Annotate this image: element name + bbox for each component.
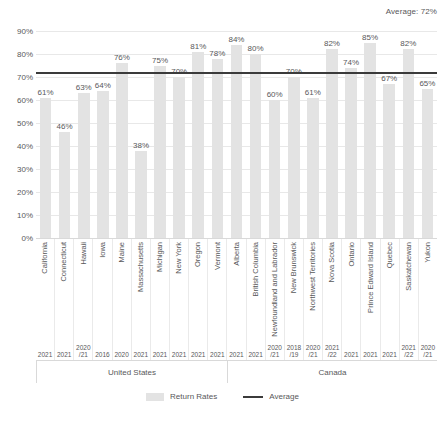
bar-value-label: 46% [57,123,73,131]
return-rates-chart: Average: 72% 0%10%20%30%40%50%60%70%80%9… [0,0,445,429]
bar-value-label: 82% [400,40,416,48]
category-label: New Brunswick [290,242,298,293]
bar-slot[interactable]: 81% [189,31,208,238]
bar[interactable]: 60% [269,100,281,238]
category-label: Newfoundland and Labrador [271,242,279,337]
bar-swatch-icon [146,393,164,401]
bar-slot[interactable]: 38% [131,31,150,238]
bar-value-label: 81% [190,43,206,51]
year-label: 2021 [344,352,358,359]
bar-slot[interactable]: 84% [227,31,246,238]
category-label: Michigan [156,242,164,272]
bar-slot[interactable]: 75% [151,31,170,238]
bar-slot[interactable]: 61% [303,31,322,238]
legend-label-return-rates: Return Rates [170,392,217,401]
category-label: New York [175,242,183,274]
y-tick-label: 80% [17,50,33,59]
line-swatch-icon [243,396,263,398]
bar-slot[interactable]: 46% [55,31,74,238]
bar[interactable]: 61% [40,98,52,238]
category-tick: Nova Scotia [323,239,342,339]
bar[interactable]: 70% [173,77,185,238]
year-label: 2021 [210,352,224,359]
bar-slot[interactable]: 65% [418,31,437,238]
bar-slot[interactable]: 82% [399,31,418,238]
year-label: 2021 [172,352,186,359]
category-tick: New Brunswick [285,239,304,339]
category-label: Nova Scotia [328,242,336,282]
bar[interactable]: 80% [250,54,262,238]
bar-slot[interactable]: 60% [265,31,284,238]
bar[interactable]: 61% [307,98,319,238]
category-label: Northwest Territories [309,242,317,311]
category-label: Connecticut [60,242,68,282]
year-tick: 2021/22 [323,338,342,360]
bar[interactable]: 46% [59,132,71,238]
legend-item-average: Average [243,392,299,401]
bar-slot[interactable]: 67% [380,31,399,238]
year-tick: 2021 [227,338,246,360]
bar[interactable]: 65% [422,89,434,239]
bar-value-label: 82% [324,40,340,48]
bar-value-label: 65% [419,80,435,88]
year-tick: 2021 [208,338,227,360]
bar[interactable]: 82% [326,49,338,238]
year-tick: 2021 [55,338,74,360]
bar[interactable]: 64% [97,91,109,238]
bar-value-label: 80% [248,45,264,53]
year-tick: 2021 [132,338,151,360]
category-label: Ontario [348,242,356,267]
year-tick: 2018/19 [285,338,304,360]
year-label: /21 [79,352,88,359]
year-axis: 202120212020/212016202020212021202120212… [36,338,437,360]
bar-value-label: 85% [362,34,378,42]
y-tick-label: 50% [17,119,33,128]
bar-slot[interactable]: 76% [112,31,131,238]
legend-label-average: Average [269,392,299,401]
bar-slot[interactable]: 82% [322,31,341,238]
bar-slot[interactable]: 63% [74,31,93,238]
y-tick-label: 0% [21,234,33,243]
bar[interactable]: 82% [403,49,415,238]
category-tick: Iowa [93,239,112,339]
bar[interactable]: 63% [78,93,90,238]
bar[interactable]: 75% [154,66,166,239]
bar-slot[interactable]: 64% [93,31,112,238]
bar-value-label: 38% [133,142,149,150]
bar-slot[interactable]: 70% [284,31,303,238]
y-tick-label: 40% [17,142,33,151]
category-label: Hawaii [80,242,88,265]
bar-slot[interactable]: 78% [208,31,227,238]
category-tick: Saskatchewan [400,239,419,339]
bar[interactable]: 74% [345,68,357,238]
category-tick: Ontario [342,239,361,339]
year-tick: 2020 [113,338,132,360]
year-label: /22 [328,352,337,359]
category-label: Yukon [424,242,432,263]
year-tick: 2021 [151,338,170,360]
category-label: Prince Edward Island [367,242,375,313]
category-tick: Hawaii [74,239,93,339]
bar-slot[interactable]: 70% [170,31,189,238]
bar-slot[interactable]: 85% [361,31,380,238]
bar-slot[interactable]: 74% [342,31,361,238]
bar[interactable]: 76% [116,63,128,238]
bar[interactable]: 38% [135,151,147,238]
bar[interactable]: 78% [212,59,224,238]
year-tick: 2016 [93,338,112,360]
bar[interactable]: 67% [383,84,395,238]
bar-slot[interactable]: 80% [246,31,265,238]
bar-value-label: 67% [381,75,397,83]
bar[interactable]: 81% [192,52,204,238]
bar[interactable]: 70% [288,77,300,238]
bar-value-label: 61% [305,89,321,97]
year-tick: 2021 [381,338,400,360]
category-tick: Maine [113,239,132,339]
year-tick: 2021/22 [400,338,419,360]
year-label: 2021 [191,352,205,359]
bar-slot[interactable]: 61% [36,31,55,238]
y-tick-label: 90% [17,27,33,36]
category-label: Massachusetts [137,242,145,292]
category-tick: California [36,239,55,339]
y-tick-label: 20% [17,188,33,197]
